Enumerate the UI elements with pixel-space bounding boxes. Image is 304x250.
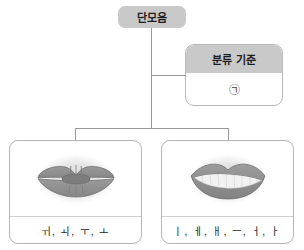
leaf-box-unrounded-vowels[interactable]: ㅣ, ㅔ, ㅐ, ㅡ, ㅓ, ㅏ <box>161 140 294 244</box>
spread-lips-icon <box>180 147 276 211</box>
vowel-classification-diagram: 단모음 분류 기준 ㉠ <box>0 0 304 250</box>
leaf-figure-rounded <box>10 141 141 217</box>
criterion-body: ㉠ <box>186 73 282 105</box>
leaf-figure-unrounded <box>162 141 293 217</box>
criterion-card[interactable]: 분류 기준 ㉠ <box>185 44 283 106</box>
leaf-box-rounded-vowels[interactable]: ㅟ, ㅚ, ㅜ, ㅗ <box>9 140 142 244</box>
leaf-caption-rounded: ㅟ, ㅚ, ㅜ, ㅗ <box>10 217 141 243</box>
criterion-header: 분류 기준 <box>186 45 282 73</box>
trunk-line-root <box>151 28 152 128</box>
root-node-simple-vowels[interactable]: 단모음 <box>118 6 186 28</box>
root-node-label: 단모음 <box>137 9 168 25</box>
branch-bar <box>75 128 228 129</box>
criterion-title: 분류 기준 <box>212 51 255 67</box>
rounded-lips-icon <box>28 147 124 211</box>
rounded-vowel-list: ㅟ, ㅚ, ㅜ, ㅗ <box>41 223 111 238</box>
circled-giyeok-icon: ㉠ <box>229 81 240 97</box>
spur-line-criterion <box>151 75 185 76</box>
leaf-caption-unrounded: ㅣ, ㅔ, ㅐ, ㅡ, ㅓ, ㅏ <box>162 217 293 243</box>
unrounded-vowel-list: ㅣ, ㅔ, ㅐ, ㅡ, ㅓ, ㅏ <box>173 223 281 238</box>
drop-line-right <box>228 128 229 140</box>
drop-line-left <box>75 128 76 140</box>
